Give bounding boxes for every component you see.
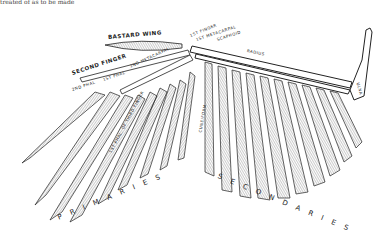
bastard-wing [105,41,182,50]
